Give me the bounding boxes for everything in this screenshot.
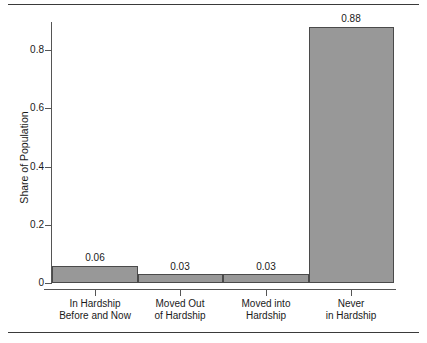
- x-tick-2: [266, 290, 267, 296]
- y-tick-1: [45, 225, 51, 226]
- y-tick-label-3: 0.6: [30, 103, 44, 113]
- y-tick-2: [45, 167, 51, 168]
- x-tick-1: [180, 290, 181, 296]
- bar-never-in-hardship[interactable]: [309, 27, 395, 283]
- x-category-label-3-line-1: Never: [291, 298, 411, 310]
- y-tick-label-0: 0: [38, 278, 44, 288]
- y-tick-label-2: 0.4: [30, 162, 44, 172]
- figure-container: Share of Population 0 0.2 0.4 0.6 0.8 0.…: [0, 0, 427, 343]
- bar-value-label-2: 0.03: [226, 262, 306, 272]
- y-tick-label-1: 0.2: [30, 220, 44, 230]
- x-tick-3: [351, 290, 352, 296]
- plot-area: [52, 22, 394, 283]
- bar-in-hardship-before-and-now[interactable]: [52, 266, 138, 284]
- y-tick-0: [45, 283, 51, 284]
- bar-value-label-0: 0.06: [55, 253, 135, 263]
- y-tick-3: [45, 108, 51, 109]
- y-tick-label-4: 0.8: [30, 45, 44, 55]
- x-axis-line: [44, 289, 396, 290]
- x-category-label-3-line-2: in Hardship: [291, 310, 411, 322]
- bar-moved-into-hardship[interactable]: [223, 274, 309, 283]
- bottom-horizontal-rule: [8, 332, 419, 333]
- top-horizontal-rule: [8, 4, 419, 5]
- y-tick-4: [45, 50, 51, 51]
- x-category-label-3: Never in Hardship: [291, 298, 411, 322]
- x-tick-0: [95, 290, 96, 296]
- y-axis-title: Share of Population: [19, 88, 30, 228]
- bar-value-label-1: 0.03: [140, 262, 220, 272]
- bar-value-label-3: 0.88: [311, 14, 391, 24]
- bar-moved-out-of-hardship[interactable]: [138, 274, 224, 283]
